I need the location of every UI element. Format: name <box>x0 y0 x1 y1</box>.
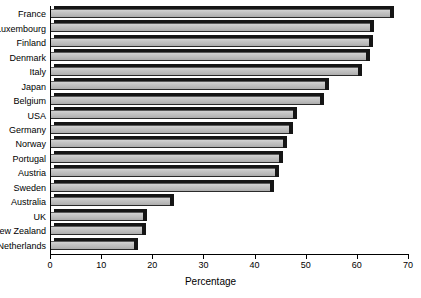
x-tick-label-0: 0 <box>47 260 52 270</box>
y-axis-label-germany: Germany <box>9 124 46 136</box>
bar-australia <box>50 194 175 208</box>
bar-belgium <box>50 93 325 107</box>
x-tick-label-10: 10 <box>96 260 106 270</box>
y-axis-label-japan: Japan <box>21 81 46 93</box>
bar-japan <box>50 78 330 92</box>
y-axis-label-luxembourg: Luxembourg <box>0 23 46 35</box>
y-axis-label-usa: USA <box>27 110 46 122</box>
y-axis-category-labels: FranceLuxembourgFinlandDenmarkItalyJapan… <box>0 6 48 252</box>
x-tick-30 <box>203 255 204 259</box>
bar-norway <box>50 136 288 150</box>
y-axis-label-france: France <box>18 8 46 20</box>
bar-chart: FranceLuxembourgFinlandDenmarkItalyJapan… <box>0 0 421 298</box>
bar-denmark <box>50 49 371 63</box>
bar-right-cap <box>275 165 279 177</box>
bar-usa <box>50 107 298 121</box>
bar-body <box>50 81 325 90</box>
plot-area <box>50 6 408 252</box>
bar-body <box>50 110 293 119</box>
bar-right-cap <box>170 194 174 206</box>
bar-italy <box>50 64 363 78</box>
bar-body <box>50 125 289 134</box>
x-tick-20 <box>152 255 153 259</box>
bar-right-cap <box>358 64 362 76</box>
bar-body <box>50 168 275 177</box>
bar-finland <box>50 35 374 49</box>
bar-right-cap <box>370 20 374 32</box>
bar-germany <box>50 122 294 136</box>
y-axis-label-italy: Italy <box>29 66 46 78</box>
bar-body <box>50 154 279 163</box>
bar-right-cap <box>293 107 297 119</box>
bar-right-cap <box>369 35 373 47</box>
bar-right-cap <box>279 151 283 163</box>
x-tick-70 <box>408 255 409 259</box>
y-axis-label-norway: Norway <box>15 138 46 150</box>
bar-body <box>50 96 320 105</box>
y-axis-label-belgium: Belgium <box>13 95 46 107</box>
bar-portugal <box>50 151 284 165</box>
bar-body <box>50 241 134 250</box>
y-axis-line <box>50 6 51 254</box>
bar-right-cap <box>366 49 370 61</box>
bar-right-cap <box>270 180 274 192</box>
y-axis-label-austria: Austria <box>18 167 46 179</box>
bar-body <box>50 52 366 61</box>
bar-new-zealand <box>50 223 147 237</box>
x-axis-line <box>50 254 409 255</box>
bar-austria <box>50 165 280 179</box>
x-tick-label-30: 30 <box>198 260 208 270</box>
bar-body <box>50 139 283 148</box>
bar-body <box>50 212 143 221</box>
y-axis-label-portugal: Portugal <box>12 153 46 165</box>
y-axis-label-netherlands: Netherlands <box>0 240 46 252</box>
y-axis-label-uk: UK <box>33 211 46 223</box>
bar-france <box>50 6 395 20</box>
bar-body <box>50 226 142 235</box>
bar-luxembourg <box>50 20 375 34</box>
bar-netherlands <box>50 238 139 252</box>
x-tick-label-20: 20 <box>147 260 157 270</box>
x-tick-50 <box>306 255 307 259</box>
bar-right-cap <box>134 238 138 250</box>
bar-body <box>50 67 358 76</box>
bar-body <box>50 197 170 206</box>
bar-uk <box>50 209 148 223</box>
bar-body <box>50 38 369 47</box>
bar-right-cap <box>320 93 324 105</box>
bar-right-cap <box>142 223 146 235</box>
x-tick-label-40: 40 <box>250 260 260 270</box>
bar-sweden <box>50 180 275 194</box>
x-tick-label-70: 70 <box>403 260 413 270</box>
bar-body <box>50 9 390 18</box>
bar-right-cap <box>283 136 287 148</box>
x-tick-label-50: 50 <box>301 260 311 270</box>
x-tick-60 <box>357 255 358 259</box>
bar-right-cap <box>143 209 147 221</box>
bar-right-cap <box>325 78 329 90</box>
y-axis-label-new-zealand: New Zealand <box>0 225 46 237</box>
y-axis-label-australia: Australia <box>11 196 46 208</box>
bar-right-cap <box>390 6 394 18</box>
x-tick-label-60: 60 <box>352 260 362 270</box>
x-tick-40 <box>255 255 256 259</box>
bar-right-cap <box>289 122 293 134</box>
bar-body <box>50 23 370 32</box>
bar-body <box>50 183 270 192</box>
y-axis-label-sweden: Sweden <box>13 182 46 194</box>
x-tick-10 <box>101 255 102 259</box>
x-tick-0 <box>50 255 51 259</box>
y-axis-label-finland: Finland <box>16 37 46 49</box>
y-axis-label-denmark: Denmark <box>9 52 46 64</box>
x-axis-title: Percentage <box>0 276 421 287</box>
